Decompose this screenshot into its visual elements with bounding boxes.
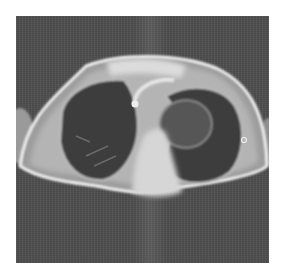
vessel-dot: [132, 101, 139, 108]
chest-cross-section: [16, 16, 269, 263]
mri-image: [16, 16, 269, 263]
